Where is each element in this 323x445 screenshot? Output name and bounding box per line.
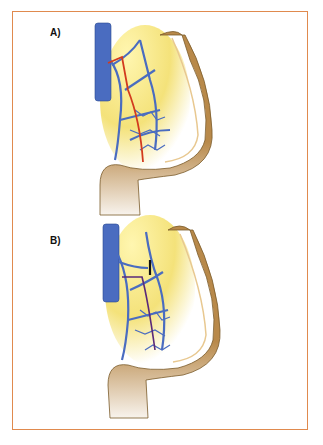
panel-b-illustration (103, 215, 220, 418)
anatomy-illustration (0, 0, 323, 445)
panel-a-illustration (95, 23, 212, 215)
